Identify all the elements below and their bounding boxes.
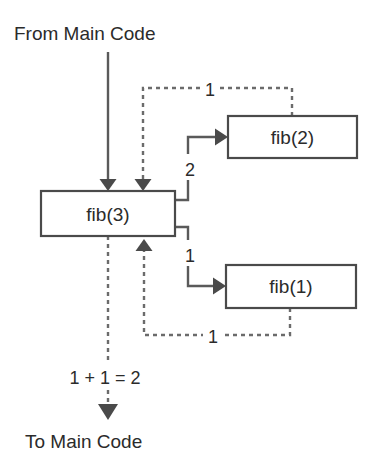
edge-label-fib2-return-text: 1: [205, 80, 215, 100]
edge-label-fib2-return: 1: [200, 76, 220, 100]
edge-label-fib1-return-text: 1: [208, 327, 218, 347]
edge-fib3-to-main: [98, 236, 118, 420]
caption-from-main-code: From Main Code: [14, 23, 156, 44]
node-fib2-label: fib(2): [271, 127, 314, 148]
edge-label-fib3-to-fib2: 2: [180, 154, 200, 180]
edge-label-fib3-to-fib1: 1: [180, 240, 200, 266]
diagram-canvas: fib(3) fib(2) fib(1) 1 2 1 1: [0, 0, 379, 469]
edge-label-fib1-return: 1: [203, 323, 223, 347]
edge-label-fib3-to-fib1-text: 1: [185, 246, 195, 266]
caption-sum-result: 1 + 1 = 2: [69, 368, 140, 388]
edge-label-fib3-to-fib2-text: 2: [185, 160, 195, 180]
node-fib1-label: fib(1): [269, 276, 312, 297]
fibonacci-recursion-diagram: fib(3) fib(2) fib(1) 1 2 1 1: [0, 0, 379, 469]
node-fib1[interactable]: fib(1): [226, 265, 356, 308]
edge-main-to-fib3: [100, 52, 117, 191]
node-fib2[interactable]: fib(2): [228, 116, 357, 158]
caption-to-main-code: To Main Code: [25, 431, 142, 452]
node-fib3-label: fib(3): [86, 204, 129, 225]
node-fib3[interactable]: fib(3): [41, 191, 175, 236]
